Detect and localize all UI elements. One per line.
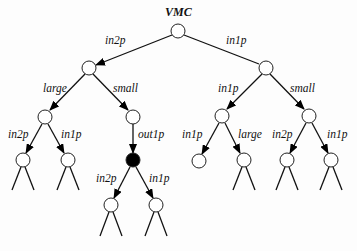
edge-label: small xyxy=(113,82,138,94)
node-in1p xyxy=(259,61,273,75)
tree-diagram: VMC in2p in1p large small in1p small in2… xyxy=(0,0,357,251)
node-small xyxy=(126,110,140,124)
node-filled-black xyxy=(126,153,140,167)
edge-label: in2p xyxy=(105,34,126,47)
node-large xyxy=(38,110,52,124)
edge-rsmall-in1p xyxy=(312,123,328,153)
node-leaf xyxy=(237,153,251,167)
node-r-small xyxy=(302,109,316,123)
edge-label: in1p xyxy=(218,82,239,95)
node-leaf xyxy=(280,153,294,167)
node-terminal xyxy=(192,154,206,168)
edge-label: in1p xyxy=(327,128,348,141)
node-leaf xyxy=(104,198,118,212)
edge-label: in2p xyxy=(8,128,29,141)
edge-label: in1p xyxy=(149,172,170,185)
edge-label: in2p xyxy=(96,172,117,185)
nodes xyxy=(16,24,338,212)
edge-label: large xyxy=(43,82,67,95)
subtree-stubs xyxy=(12,167,342,236)
edge-vmc-in1p xyxy=(184,35,259,64)
edge-label: small xyxy=(290,82,315,94)
node-in2p xyxy=(82,61,96,75)
node-root xyxy=(171,24,185,38)
root-label: VMC xyxy=(165,5,193,19)
edge-label: out1p xyxy=(138,128,164,141)
edge-label: large xyxy=(238,128,262,141)
tree-svg: VMC in2p in1p large small in1p small in2… xyxy=(0,0,357,251)
node-leaf xyxy=(324,153,338,167)
edge-label: in1p xyxy=(226,34,247,47)
edge-rin1p-in1p xyxy=(202,123,219,154)
edge-label: in1p xyxy=(61,128,82,141)
node-leaf xyxy=(61,153,75,167)
node-r-in1p xyxy=(215,109,229,123)
edge-label: in2p xyxy=(272,128,293,141)
node-leaf xyxy=(16,153,30,167)
edge-label: in1p xyxy=(182,128,203,141)
node-leaf xyxy=(149,198,163,212)
